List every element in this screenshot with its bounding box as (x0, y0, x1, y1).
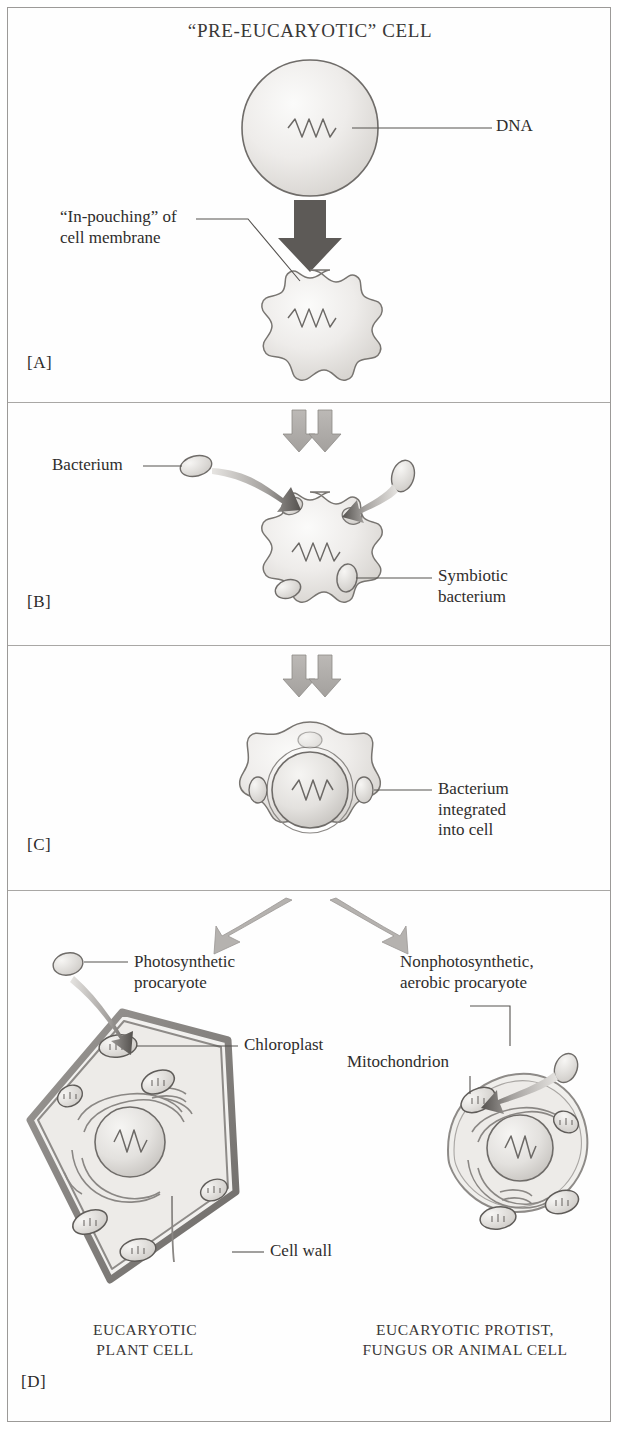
bacterium-motion-arrow-left (212, 468, 301, 512)
eucaryotic-animal-cell (448, 1006, 587, 1231)
label-dna: DNA (496, 116, 533, 137)
label-chloroplast: Chloroplast (244, 1035, 323, 1056)
arrow-c-to-d-left (214, 898, 292, 954)
free-bacterium-left (178, 452, 214, 479)
label-bacterium-integrated: Bacterium integrated into cell (438, 779, 509, 841)
symbiosis-cell (143, 452, 432, 602)
organelle-top (298, 732, 322, 748)
nucleus (487, 1115, 553, 1181)
endosymbiosis-figure: “PRE-EUCARYOTIC” CELL [A] [B] [C] [D] (0, 0, 620, 1431)
label-mitochondrion: Mitochondrion (347, 1052, 449, 1073)
photosynthetic-procaryote (51, 950, 85, 978)
label-symbiotic-bacterium: Symbiotic bacterium (438, 566, 508, 607)
arrow-a-down (278, 200, 342, 272)
arrow-a-to-b (283, 410, 341, 452)
arrow-b-to-c (283, 655, 341, 697)
aerobic-procaryote-leader (470, 1006, 510, 1046)
caption-animal-cell: EUCARYOTIC PROTIST, FUNGUS OR ANIMAL CEL… (320, 1320, 610, 1360)
label-in-pouching: “In-pouching” of cell membrane (60, 207, 177, 248)
label-cell-wall: Cell wall (270, 1241, 332, 1262)
caption-plant-cell: EUCARYOTIC PLANT CELL (10, 1320, 280, 1360)
integrated-cell (240, 722, 432, 833)
label-photosynthetic-procaryote: Photosynthetic procaryote (134, 952, 235, 993)
label-bacterium: Bacterium (52, 455, 123, 476)
label-nonphotosynthetic-procaryote: Nonphotosynthetic, aerobic procaryote (400, 952, 534, 993)
organelle-left (249, 777, 267, 803)
organelle-right (355, 777, 373, 803)
in-pouching-leader (196, 219, 300, 281)
pre-eucaryotic-cell (242, 60, 492, 196)
eucaryotic-plant-cell (30, 950, 264, 1280)
arrow-c-to-d-right (330, 898, 408, 954)
